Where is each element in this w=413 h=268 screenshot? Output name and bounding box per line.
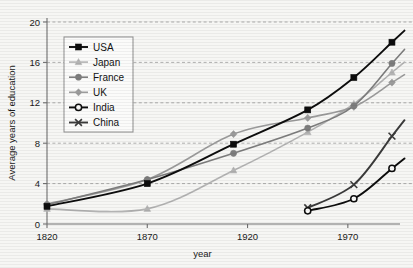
y-tick-label-4: 4 (35, 178, 40, 189)
legend-label-usa: USA (93, 42, 114, 53)
chart-svg: 0481216201820187019201970yearAverage yea… (0, 0, 413, 268)
marker-square (44, 203, 50, 209)
marker-x-cross (350, 181, 357, 188)
marker-open-circle (389, 165, 395, 171)
marker-open-circle (75, 104, 81, 110)
marker-square (305, 107, 311, 113)
marker-x-cross (389, 133, 396, 140)
legend: USAJapanFranceUKIndiaChina (64, 37, 133, 132)
x-tick-label-1870: 1870 (137, 231, 158, 242)
x-tick-label-1970: 1970 (337, 231, 358, 242)
y-tick-label-20: 20 (29, 17, 40, 28)
x-tick-label-1920: 1920 (237, 231, 258, 242)
marker-circle (75, 74, 81, 80)
legend-label-china: China (93, 117, 120, 128)
marker-diamond (230, 131, 237, 138)
marker-open-circle (351, 196, 357, 202)
marker-circle (230, 150, 236, 156)
legend-label-uk: UK (93, 87, 107, 98)
marker-diamond (304, 114, 311, 121)
y-tick-label-8: 8 (35, 138, 40, 149)
y-axis-title: Average years of education (6, 65, 17, 180)
marker-square (144, 181, 150, 187)
x-tick-label-1820: 1820 (36, 231, 57, 242)
marker-square (351, 75, 357, 81)
legend-label-india: India (93, 102, 115, 113)
marker-circle (305, 125, 311, 131)
y-tick-label-16: 16 (29, 57, 40, 68)
education-line-chart: 0481216201820187019201970yearAverage yea… (0, 0, 413, 268)
marker-square (231, 141, 237, 147)
marker-circle (351, 103, 357, 109)
x-axis-title: year (193, 248, 211, 259)
marker-square (389, 39, 395, 45)
marker-circle (389, 60, 395, 66)
y-tick-label-0: 0 (35, 219, 40, 230)
marker-square (76, 44, 82, 50)
marker-open-circle (305, 208, 311, 214)
legend-label-japan: Japan (93, 57, 120, 68)
legend-label-france: France (93, 72, 125, 83)
y-tick-label-12: 12 (29, 97, 40, 108)
